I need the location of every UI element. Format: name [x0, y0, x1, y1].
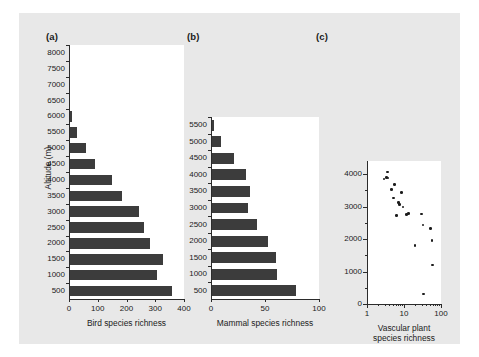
x-tick: [155, 299, 156, 302]
bar: [69, 238, 150, 248]
y-tick-label: 2000: [31, 239, 65, 247]
x-tick-label: 0: [53, 305, 85, 313]
x-tick: [319, 299, 320, 302]
y-tick-label: 2000: [329, 235, 362, 243]
bar: [211, 153, 234, 164]
scatter-point: [398, 203, 401, 206]
bar: [69, 159, 95, 169]
scatter-point: [400, 191, 403, 194]
x-tick-label: 300: [139, 305, 171, 313]
y-tick-label: 6000: [31, 112, 65, 120]
bar: [69, 191, 122, 201]
y-tick-label: 8000: [31, 49, 65, 57]
y-tick-label: 4500: [173, 154, 207, 162]
y-tick-label: 500: [173, 287, 207, 295]
y-tick-label: 7500: [31, 65, 65, 73]
bar: [69, 143, 86, 153]
y-tick-label: 0: [329, 300, 362, 308]
x-tick-label: 10: [388, 310, 420, 318]
x-tick: [98, 299, 99, 302]
x-tick: [265, 299, 266, 302]
y-tick-label: 4500: [31, 160, 65, 168]
panel-label-b: (b): [187, 31, 199, 42]
y-tick-label: 1500: [31, 255, 65, 263]
scatter-point: [390, 188, 393, 191]
bar: [69, 127, 77, 137]
bar: [69, 270, 157, 280]
x-axis-title: Vascular plantspecies richness: [333, 323, 475, 343]
y-axis-line: [69, 45, 70, 299]
y-tick-label: 5500: [31, 128, 65, 136]
x-axis-line: [367, 304, 442, 305]
bar: [69, 175, 112, 185]
bar: [211, 219, 257, 230]
y-tick-label: 3500: [31, 192, 65, 200]
y-tick-label: 4000: [329, 170, 362, 178]
y-tick-label: 7000: [31, 81, 65, 89]
y-tick-label: 3000: [31, 208, 65, 216]
bar: [211, 236, 268, 247]
y-tick-label: 2500: [31, 224, 65, 232]
x-tick-label: 100: [425, 310, 457, 318]
y-tick-label: 4000: [31, 176, 65, 184]
x-tick: [211, 299, 212, 302]
x-axis-title: Mammal species richness: [191, 318, 339, 328]
y-tick-label: 5000: [173, 138, 207, 146]
panel-label-a: (a): [46, 31, 58, 42]
x-tick-label: 200: [111, 305, 143, 313]
bar: [69, 222, 144, 232]
bar: [211, 203, 248, 214]
x-tick-label: 0: [195, 305, 227, 313]
y-tick-label: 2500: [173, 221, 207, 229]
bar: [69, 206, 139, 216]
bar: [211, 136, 221, 147]
y-tick-label: 3000: [173, 204, 207, 212]
y-tick-label: 2000: [173, 237, 207, 245]
x-tick-label: 1: [351, 310, 383, 318]
bar: [211, 285, 296, 296]
panel-label-c: (c): [316, 31, 328, 42]
y-tick-label: 3000: [329, 203, 362, 211]
y-tick-label: 1000: [173, 270, 207, 278]
y-tick-label: 4000: [173, 171, 207, 179]
y-axis-line: [211, 117, 212, 299]
bar: [211, 269, 277, 280]
y-tick-label: 6500: [31, 97, 65, 105]
y-tick-label: 1000: [329, 268, 362, 276]
bar: [211, 169, 246, 180]
y-tick-label: 1500: [173, 254, 207, 262]
x-tick-label: 50: [249, 305, 281, 313]
plot-area: [367, 161, 441, 304]
scatter-point: [393, 183, 396, 186]
bar: [211, 252, 276, 263]
y-tick-label: 5500: [173, 121, 207, 129]
x-tick: [127, 299, 128, 302]
x-axis-title: Bird species richness: [49, 318, 204, 328]
scatter-point: [431, 239, 434, 242]
bar: [69, 286, 172, 296]
x-tick: [184, 299, 185, 302]
bar: [211, 186, 250, 197]
scatter-point: [407, 212, 410, 215]
scatter-point: [429, 227, 432, 230]
x-tick: [69, 299, 70, 302]
y-tick-label: 500: [31, 287, 65, 295]
y-axis-line: [367, 161, 368, 304]
figure-panel: (a) (b) (c) Altitude (m) 800075007000650…: [19, 13, 460, 344]
x-tick-label: 100: [82, 305, 114, 313]
y-tick-label: 3500: [173, 187, 207, 195]
scatter-point: [395, 214, 398, 217]
y-tick-label: 5000: [31, 144, 65, 152]
bar: [69, 254, 163, 264]
y-tick-label: 1000: [31, 271, 65, 279]
